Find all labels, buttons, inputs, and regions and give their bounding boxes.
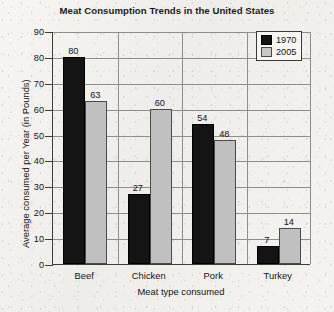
x-axis-label-turkey: Turkey [246, 270, 311, 281]
y-axis-tick-label: 90 [10, 27, 44, 37]
y-axis-tick [45, 161, 53, 162]
plot-area [52, 32, 310, 265]
bar-pork-1970 [192, 124, 214, 264]
bar-value-label: 48 [209, 129, 239, 139]
y-axis-tick [45, 265, 53, 266]
y-axis-tick [45, 239, 53, 240]
gridline-vertical [310, 32, 311, 264]
bar-pork-2005 [214, 140, 236, 264]
bar-chicken-1970 [128, 194, 150, 264]
y-axis-tick-label: 80 [10, 53, 44, 63]
x-axis-title: Meat type consumed [52, 286, 310, 297]
bar-value-label: 63 [80, 90, 110, 100]
legend-label-1970: 1970 [276, 35, 296, 45]
y-axis-tick [45, 110, 53, 111]
chart-legend: 1970 2005 [256, 31, 302, 61]
bar-value-label: 80 [58, 46, 88, 56]
x-axis-label-pork: Pork [181, 270, 246, 281]
y-axis-title: Average consumed per Year (in Pounds) [20, 79, 31, 248]
legend-label-2005: 2005 [276, 47, 296, 57]
bar-value-label: 60 [145, 98, 175, 108]
legend-swatch-2005-icon [261, 47, 272, 57]
x-axis-label-beef: Beef [52, 270, 117, 281]
bar-chart: Meat Consumption Trends in the United St… [0, 0, 334, 312]
y-axis-tick [45, 32, 53, 33]
gridline-vertical [182, 32, 183, 264]
gridline-vertical [247, 32, 248, 264]
bar-value-label: 27 [123, 183, 153, 193]
bar-chicken-2005 [150, 109, 172, 264]
gridline-vertical [118, 32, 119, 264]
bar-beef-1970 [63, 57, 85, 264]
chart-title: Meat Consumption Trends in the United St… [0, 5, 334, 16]
y-axis-tick [45, 84, 53, 85]
bar-beef-2005 [85, 101, 107, 264]
y-axis-tick [45, 187, 53, 188]
y-axis-tick [45, 136, 53, 137]
y-axis-tick [45, 213, 53, 214]
bar-value-label: 54 [187, 113, 217, 123]
bar-turkey-2005 [279, 228, 301, 264]
legend-item-1970: 1970 [261, 35, 296, 45]
y-axis-tick-label: 0 [10, 260, 44, 270]
bar-value-label: 14 [274, 217, 304, 227]
y-axis-tick [45, 58, 53, 59]
legend-swatch-1970-icon [261, 35, 272, 45]
x-axis-label-chicken: Chicken [117, 270, 182, 281]
bar-turkey-1970 [257, 246, 279, 264]
legend-item-2005: 2005 [261, 47, 296, 57]
bar-value-label: 7 [252, 235, 282, 245]
